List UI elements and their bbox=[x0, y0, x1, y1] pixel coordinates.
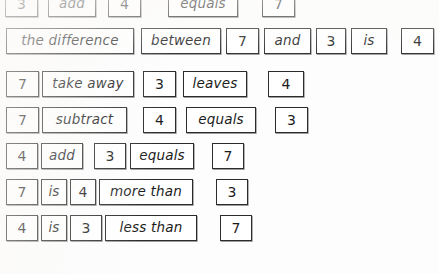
number-card: 3 bbox=[5, 0, 38, 17]
number-card: 3 bbox=[275, 107, 308, 133]
word-card: is bbox=[351, 28, 387, 54]
number-card: 4 bbox=[268, 71, 304, 97]
number-card: 7 bbox=[6, 179, 38, 205]
word-card: is bbox=[41, 179, 67, 205]
number-card: 4 bbox=[70, 179, 96, 205]
worksheet-page: 3add4equals7the differencebetween7and3is… bbox=[0, 0, 439, 274]
word-card: more than bbox=[99, 179, 193, 205]
number-card: 7 bbox=[226, 28, 259, 54]
word-card: and bbox=[264, 28, 311, 54]
number-card: 4 bbox=[401, 28, 434, 54]
number-card: 3 bbox=[216, 179, 248, 205]
word-card: add bbox=[41, 143, 83, 169]
word-card: take away bbox=[42, 71, 134, 97]
number-card: 4 bbox=[108, 0, 141, 17]
word-card: equals bbox=[186, 107, 256, 133]
number-card: 3 bbox=[94, 143, 126, 169]
word-card: leaves bbox=[183, 71, 247, 97]
number-card: 3 bbox=[316, 28, 346, 54]
number-card: 7 bbox=[220, 215, 252, 241]
word-card: the difference bbox=[6, 28, 134, 54]
word-card: subtract bbox=[42, 107, 127, 133]
number-card: 7 bbox=[6, 107, 39, 133]
word-card: equals bbox=[168, 0, 238, 17]
page-caption bbox=[78, 262, 378, 274]
word-card: add bbox=[48, 0, 96, 17]
word-card: equals bbox=[130, 143, 194, 169]
number-card: 4 bbox=[6, 215, 38, 241]
number-card: 3 bbox=[143, 71, 176, 97]
number-card: 3 bbox=[70, 215, 102, 241]
number-card: 7 bbox=[212, 143, 244, 169]
word-card: between bbox=[141, 28, 221, 54]
word-card: is bbox=[41, 215, 67, 241]
number-card: 7 bbox=[262, 0, 295, 17]
word-card: less than bbox=[105, 215, 197, 241]
number-card: 7 bbox=[6, 71, 39, 97]
number-card: 4 bbox=[6, 143, 38, 169]
number-card: 4 bbox=[143, 107, 176, 133]
